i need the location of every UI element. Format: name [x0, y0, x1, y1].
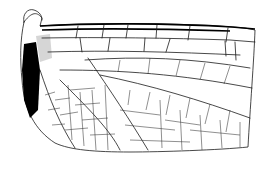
basal-dark-patch [22, 42, 40, 118]
costa-vein [40, 24, 255, 29]
wing-illustration [0, 0, 270, 190]
wing-outline [21, 14, 255, 152]
wing-venation-drawing [0, 0, 270, 190]
